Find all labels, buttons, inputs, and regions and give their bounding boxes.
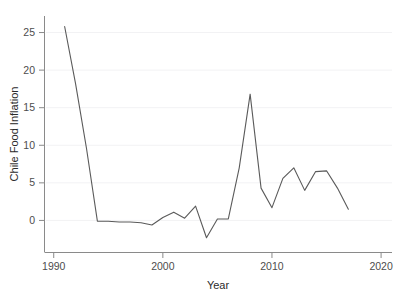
y-tick-label: 20 <box>23 64 35 76</box>
y-tick-label: 0 <box>29 214 35 226</box>
x-axis-title: Year <box>207 279 230 291</box>
x-axis: 1990200020102020 <box>42 253 393 273</box>
y-tick-label: 15 <box>23 101 35 113</box>
y-tick-label: 10 <box>23 139 35 151</box>
y-tick-label: 5 <box>29 176 35 188</box>
x-tick-label: 2020 <box>369 260 393 272</box>
y-axis-title: Chile Food Inflation <box>8 87 20 182</box>
x-tick-label: 1990 <box>42 260 66 272</box>
line-chart: 0510152025 1990200020102020 Year Chile F… <box>0 0 406 308</box>
chart-container: 0510152025 1990200020102020 Year Chile F… <box>0 0 406 308</box>
y-axis: 0510152025 <box>23 16 44 252</box>
x-tick-label: 2000 <box>151 260 175 272</box>
x-tick-label: 2010 <box>260 260 284 272</box>
data-series-chile-food-inflation <box>65 27 349 238</box>
series-line <box>65 27 349 238</box>
y-tick-label: 25 <box>23 26 35 38</box>
